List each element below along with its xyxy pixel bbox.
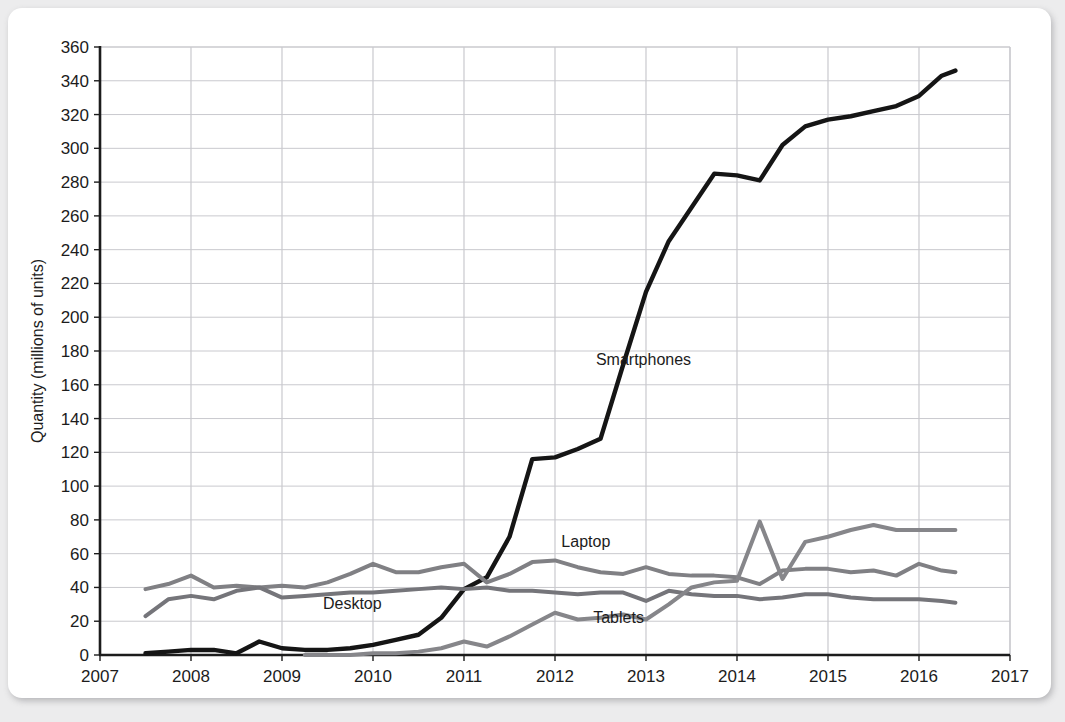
x-axis-tick-label: 2008	[172, 667, 210, 686]
y-axis-title: Quantity (millions of units)	[29, 259, 46, 443]
y-axis-tick-label: 60	[70, 545, 89, 564]
y-axis-tick-label: 240	[61, 241, 89, 260]
y-axis-tick-label: 40	[70, 578, 89, 597]
chart-canvas: 0204060801001201401601802002202402602803…	[0, 0, 1065, 722]
y-axis-tick-label: 360	[61, 38, 89, 57]
y-axis-tick-label: 0	[80, 646, 89, 665]
y-axis-tick-label: 80	[70, 511, 89, 530]
y-axis-tick-label: 260	[61, 207, 89, 226]
y-axis-tick-label: 100	[61, 477, 89, 496]
y-axis-tick-label: 320	[61, 106, 89, 125]
line-chart: 0204060801001201401601802002202402602803…	[0, 0, 1065, 722]
y-axis-tick-label: 180	[61, 342, 89, 361]
chart-page: 0204060801001201401601802002202402602803…	[0, 0, 1065, 722]
y-axis-tick-label: 280	[61, 173, 89, 192]
y-axis-tick-label: 340	[61, 72, 89, 91]
x-axis-tick-label: 2016	[900, 667, 938, 686]
y-axis-tick-label: 300	[61, 139, 89, 158]
series-label-smartphones: Smartphones	[596, 351, 691, 368]
x-axis-tick-label: 2015	[809, 667, 847, 686]
y-axis-tick-label: 120	[61, 443, 89, 462]
y-axis-tick-label: 160	[61, 376, 89, 395]
x-axis-tick-label: 2009	[263, 667, 301, 686]
x-axis-tick-label: 2017	[991, 667, 1029, 686]
x-axis-tick-label: 2013	[627, 667, 665, 686]
x-axis-tick-label: 2007	[81, 667, 119, 686]
series-label-tablets: Tablets	[593, 609, 644, 626]
y-axis-tick-label: 220	[61, 274, 89, 293]
series-label-laptop: Laptop	[561, 533, 610, 550]
y-axis-tick-label: 200	[61, 308, 89, 327]
x-axis-tick-label: 2010	[354, 667, 392, 686]
x-axis-tick-label: 2012	[536, 667, 574, 686]
series-label-desktop: Desktop	[323, 595, 382, 612]
x-axis-tick-label: 2014	[718, 667, 756, 686]
x-axis-tick-label: 2011	[446, 667, 483, 686]
y-axis-tick-label: 140	[61, 410, 89, 429]
y-axis-tick-label: 20	[70, 612, 89, 631]
